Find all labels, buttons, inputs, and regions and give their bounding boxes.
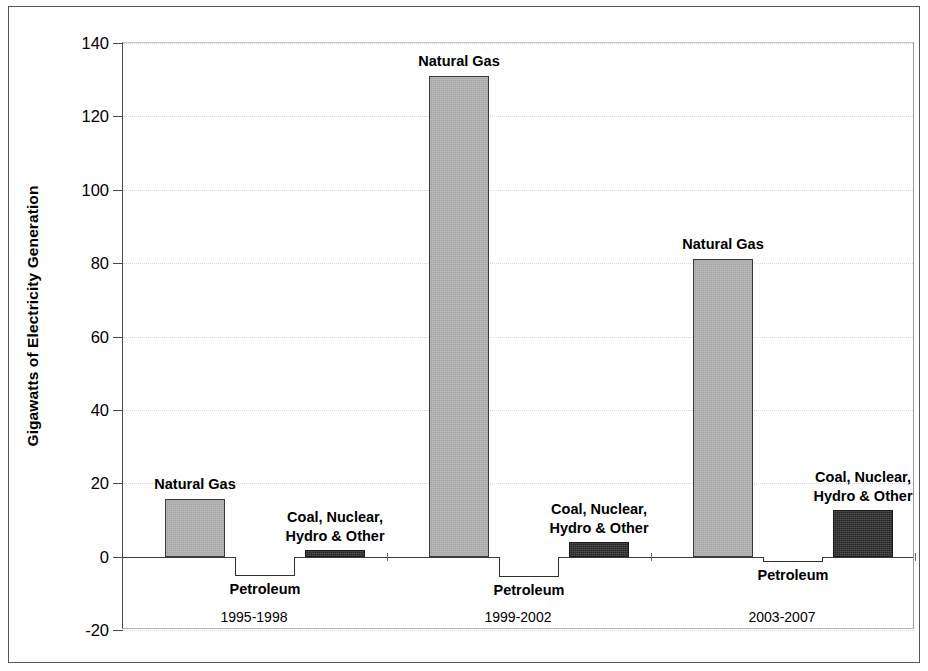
y-axis-title: Gigawatts of Electricity Generation: [24, 106, 42, 526]
bar-label-petro-2003-2007: Petroleum: [708, 566, 878, 585]
bar-label-gas-2003-2007: Natural Gas: [638, 235, 808, 254]
gridline: [123, 630, 913, 631]
plot-area: 140120100806040200-20 Natural GasPetrole…: [122, 42, 914, 629]
bar-gas-2003-2007: [693, 259, 753, 556]
y-axis-tick-label: 0: [100, 547, 109, 566]
bar-label-coal-1995-1998: Coal, Nuclear, Hydro & Other: [250, 508, 420, 545]
bar-label-coal-1999-2002: Coal, Nuclear, Hydro & Other: [514, 500, 684, 537]
y-axis-tick-label: 40: [91, 400, 109, 419]
x-axis-tick: [651, 553, 652, 561]
y-axis-tick-label: 140: [81, 34, 109, 53]
bar-gas-1999-2002: [429, 76, 489, 557]
y-axis-tick: [113, 190, 123, 191]
gridline: [123, 190, 913, 191]
bar-gas-1995-1998: [165, 499, 225, 557]
bar-petro-1999-2002: [499, 557, 559, 577]
x-axis-category-label: 2003-2007: [650, 609, 914, 625]
x-axis-category-label: 1995-1998: [122, 609, 386, 625]
y-axis-tick-label: -20: [85, 621, 109, 640]
y-axis-tick: [113, 337, 123, 338]
bar-label-gas-1999-2002: Natural Gas: [374, 52, 544, 71]
bar-coal-2003-2007: [833, 510, 893, 557]
y-axis-tick-label: 120: [81, 107, 109, 126]
gridline: [123, 116, 913, 117]
y-axis-tick-label: 20: [91, 474, 109, 493]
bar-label-petro-1999-2002: Petroleum: [444, 581, 614, 600]
gridline: [123, 263, 913, 264]
gridline: [123, 337, 913, 338]
y-axis-tick-label: 100: [81, 180, 109, 199]
gridline: [123, 43, 913, 44]
bar-label-petro-1995-1998: Petroleum: [180, 580, 350, 599]
bar-coal-1995-1998: [305, 550, 365, 556]
bar-petro-1995-1998: [235, 557, 295, 576]
y-axis-tick-label: 80: [91, 254, 109, 273]
y-axis-tick: [113, 410, 123, 411]
bar-petro-2003-2007: [763, 557, 823, 563]
bar-coal-1999-2002: [569, 542, 629, 556]
x-axis-tick: [387, 553, 388, 561]
chart-frame: Gigawatts of Electricity Generation 1401…: [8, 6, 920, 663]
x-axis-category-label: 1999-2002: [386, 609, 650, 625]
gridline: [123, 410, 913, 411]
y-axis-tick: [113, 116, 123, 117]
y-axis-tick: [113, 630, 123, 631]
y-axis-tick: [113, 43, 123, 44]
x-axis-tick: [915, 553, 916, 561]
y-axis-tick: [113, 263, 123, 264]
bar-label-coal-2003-2007: Coal, Nuclear, Hydro & Other: [778, 468, 928, 505]
y-axis-tick-label: 60: [91, 327, 109, 346]
y-axis-tick: [113, 557, 123, 558]
bar-label-gas-1995-1998: Natural Gas: [110, 475, 280, 494]
